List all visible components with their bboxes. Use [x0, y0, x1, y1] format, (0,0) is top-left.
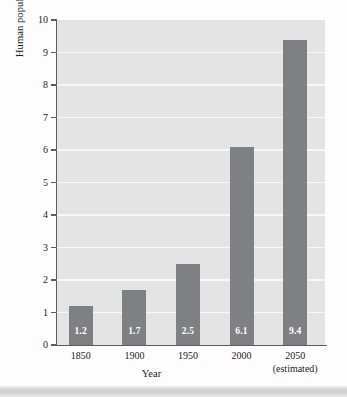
y-axis-line: [56, 19, 57, 346]
y-tick-mark: [51, 214, 56, 215]
y-tick-label: 9: [8, 48, 48, 58]
y-tick-label: 5: [8, 178, 48, 188]
y-tick-label: 8: [8, 80, 48, 90]
y-tick-mark: [51, 279, 56, 280]
y-tick-mark: [51, 84, 56, 85]
y-tick-mark: [51, 344, 56, 345]
bar-value-label: 1.7: [122, 326, 146, 336]
plot-area: 1.21.72.56.19.4: [57, 20, 325, 345]
y-tick-mark: [51, 117, 56, 118]
bar: 1.2: [69, 306, 93, 345]
y-tick-label: 2: [8, 275, 48, 285]
y-tick-mark: [51, 149, 56, 150]
y-tick-mark: [51, 52, 56, 53]
y-tick-label: 6: [8, 145, 48, 155]
bar: 2.5: [176, 264, 200, 345]
x-axis-line: [56, 345, 327, 346]
x-axis-title-text: Year: [142, 368, 161, 379]
y-tick-label: 0: [8, 340, 48, 350]
bar-value-label: 2.5: [176, 326, 200, 336]
bar-value-label: 1.2: [69, 326, 93, 336]
bar: 9.4: [283, 40, 307, 346]
bar-value-label: 9.4: [283, 326, 307, 336]
y-tick-label: 10: [8, 15, 48, 25]
y-tick-mark: [51, 247, 56, 248]
bar-value-label: 6.1: [230, 326, 254, 336]
chart-figure: Human population (billions) 1.21.72.56.1…: [0, 0, 347, 397]
y-tick-label: 1: [8, 308, 48, 318]
bar: 6.1: [230, 147, 254, 345]
y-tick-label: 7: [8, 113, 48, 123]
y-tick-label: 4: [8, 210, 48, 220]
y-tick-mark: [51, 312, 56, 313]
x-axis-title: Year: [0, 368, 347, 379]
page-edge-band: [0, 385, 347, 397]
y-tick-label: 3: [8, 243, 48, 253]
bar: 1.7: [122, 290, 146, 345]
y-tick-mark: [51, 19, 56, 20]
y-tick-mark: [51, 182, 56, 183]
